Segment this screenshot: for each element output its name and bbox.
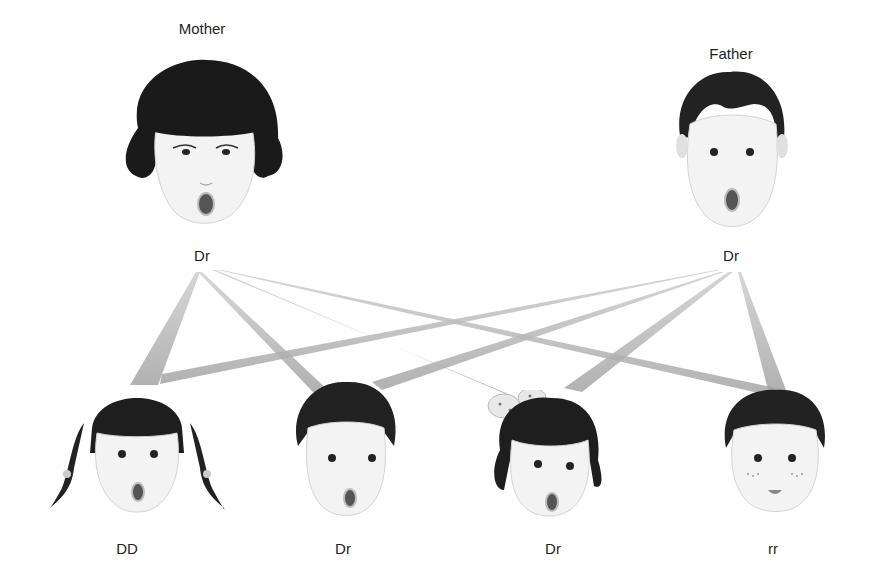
- father-title: Father: [709, 45, 752, 62]
- child-4-head: [718, 386, 830, 522]
- mother-title: Mother: [179, 20, 226, 37]
- child-1-head: [42, 378, 232, 523]
- line-mother-child1: [130, 272, 200, 385]
- child-2-genotype: Dr: [335, 540, 351, 557]
- father-head: [672, 64, 792, 234]
- child-3-head: [484, 390, 614, 526]
- child-3-genotype: Dr: [545, 540, 561, 557]
- mother-head: [118, 58, 288, 238]
- mother-genotype: Dr: [194, 247, 210, 264]
- father-genotype: Dr: [723, 247, 739, 264]
- child-2-head: [288, 376, 403, 524]
- child-4-genotype: rr: [768, 540, 778, 557]
- child-1-genotype: DD: [116, 540, 138, 557]
- line-father-child4: [738, 272, 786, 390]
